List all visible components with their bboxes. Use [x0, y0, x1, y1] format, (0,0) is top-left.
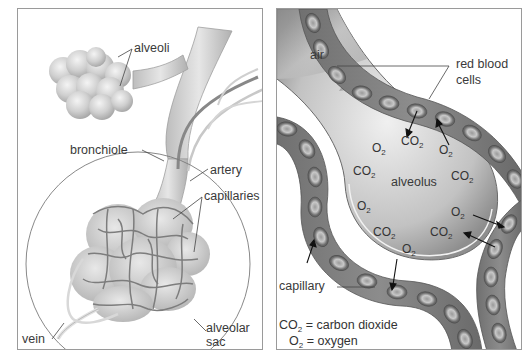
- molecule-co2: CO2: [373, 225, 395, 244]
- label-air: air: [310, 48, 324, 62]
- molecule-co2: CO2: [353, 164, 375, 183]
- label-red-blood-cells-line1: red blood: [456, 57, 508, 71]
- label-alveolus: alveolus: [391, 175, 437, 189]
- molecule-o2: O2: [402, 242, 416, 261]
- label-alveolar-sac-line1: alveolar: [206, 321, 250, 335]
- label-alveolar-sac-line2: sac: [206, 335, 225, 349]
- alveoli-illustration: [18, 9, 263, 350]
- molecule-o2: O2: [451, 205, 465, 224]
- gas-exchange-panel: air red blood cells alveolus capillary O…: [276, 8, 522, 350]
- molecule-o2: O2: [439, 143, 453, 162]
- molecule-co2: CO2: [430, 225, 452, 244]
- label-red-blood-cells-line2: cells: [456, 73, 481, 87]
- alveoli-overview-panel: alveoli bronchiole artery capillaries ve…: [17, 8, 263, 350]
- label-vein: vein: [22, 332, 45, 346]
- label-capillary: capillary: [279, 279, 325, 293]
- molecule-co2: CO2: [401, 134, 423, 153]
- molecule-co2: CO2: [451, 169, 473, 188]
- label-bronchiole: bronchiole: [70, 143, 128, 157]
- legend-o2: O2 = oxygen: [289, 334, 358, 350]
- label-capillaries: capillaries: [204, 189, 260, 203]
- molecule-o2: O2: [372, 141, 386, 160]
- label-alveoli: alveoli: [134, 41, 169, 55]
- label-artery: artery: [210, 163, 242, 177]
- molecule-o2: O2: [357, 199, 371, 218]
